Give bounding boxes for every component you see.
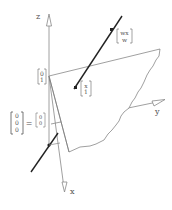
svg-text:0: 0 <box>15 119 19 126</box>
x-axis-label: x <box>70 187 75 196</box>
svg-text:1: 1 <box>40 76 44 83</box>
x-axis-arrow-icon <box>62 182 67 192</box>
y-axis-arrow-icon <box>152 100 165 107</box>
origin-equation: 0 0 0 = 0 0 <box>11 112 45 134</box>
diagram-canvas: z x y wx w x 1 <box>0 0 172 210</box>
projective-plane <box>49 49 160 152</box>
y-axis-label: y <box>154 107 160 116</box>
point-wx-w <box>110 28 113 31</box>
point-x-1 <box>74 86 77 89</box>
vector-0-1: 0 1 <box>38 69 46 84</box>
z-axis-arrow-icon <box>47 14 52 26</box>
equals-sign: = <box>26 119 33 128</box>
vector-wx-w: wx w <box>117 29 132 43</box>
z-axis-label: z <box>36 12 40 21</box>
svg-text:0: 0 <box>15 126 19 133</box>
svg-text:w: w <box>122 36 128 43</box>
svg-text:1: 1 <box>84 88 88 95</box>
svg-text:0: 0 <box>39 120 42 126</box>
line-through-origin <box>31 133 60 172</box>
svg-text:0: 0 <box>15 112 19 119</box>
